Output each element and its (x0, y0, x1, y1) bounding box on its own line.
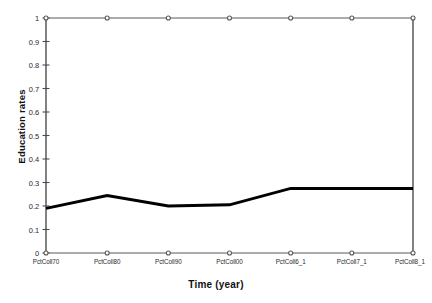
series-marker-2-1 (105, 251, 109, 255)
y-tick-label: 0.5 (13, 131, 39, 140)
series-marker-2-6 (411, 251, 415, 255)
y-tick-label: 0.7 (13, 84, 39, 93)
series-line-0 (46, 188, 413, 208)
y-tick-label: 0.3 (13, 178, 39, 187)
series-marker-1-2 (166, 16, 170, 20)
series-marker-2-5 (350, 251, 354, 255)
y-tick-label: 0.9 (13, 37, 39, 46)
y-tick-label: 0.2 (13, 202, 39, 211)
series-marker-2-2 (166, 251, 170, 255)
x-tick-label-PctColl00: PctColl00 (216, 258, 243, 265)
series-marker-2-0 (44, 251, 48, 255)
series-marker-1-0 (44, 16, 48, 20)
x-tick-label-PctColl8_1: PctColl8_1 (395, 258, 425, 265)
series-marker-1-1 (105, 16, 109, 20)
chart-screenshot: Education rates 00.10.20.30.40.50.60.70.… (0, 0, 432, 303)
x-tick-label-PctColl7_1: PctColl7_1 (337, 258, 367, 265)
series-marker-2-3 (228, 251, 232, 255)
x-tick-label-PctColl6_1: PctColl6_1 (276, 258, 306, 265)
series-marker-1-6 (411, 16, 415, 20)
series-marker-1-4 (289, 16, 293, 20)
x-tick-label-PctColl80: PctColl80 (94, 258, 121, 265)
series-marker-1-3 (228, 16, 232, 20)
line-chart-figure: Education rates 00.10.20.30.40.50.60.70.… (0, 0, 432, 303)
y-tick-label: 0 (13, 249, 39, 258)
y-tick-label: 0.1 (13, 225, 39, 234)
series-marker-1-5 (350, 16, 354, 20)
y-tick-label: 0.8 (13, 61, 39, 70)
x-tick-label-PctColl70: PctColl70 (33, 258, 60, 265)
y-tick-label: 1 (13, 14, 39, 23)
x-axis-title: Time (year) (0, 279, 432, 290)
series-marker-2-4 (289, 251, 293, 255)
y-tick-label: 0.4 (13, 155, 39, 164)
y-tick-label: 0.6 (13, 108, 39, 117)
x-tick-label-PctColl90: PctColl90 (155, 258, 182, 265)
